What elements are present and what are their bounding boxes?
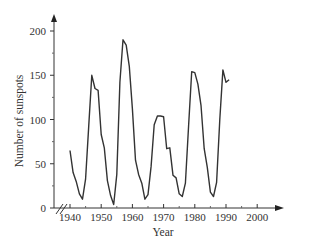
y-tick-label: 100 [30,114,47,126]
x-tick-label: 1960 [121,211,144,223]
sunspot-series-line [70,40,229,205]
y-tick-label: 0 [41,202,47,214]
x-tick-label: 1950 [90,211,113,223]
x-tick-label: 1970 [153,211,176,223]
y-axis-arrow-icon [51,14,57,22]
x-axis-arrow-icon [275,205,284,211]
x-tick-label: 1980 [184,211,207,223]
x-tick-label: 2000 [246,211,269,223]
x-axis-title: Year [152,226,173,238]
x-tick-label: 1940 [59,211,82,223]
y-tick-label: 50 [35,158,47,170]
y-axis: 050100150200 [30,14,58,214]
x-axis: 1940195019601970198019902000 [54,204,284,223]
x-tick-label: 1990 [215,211,238,223]
y-axis-title: Number of sunspots [13,74,26,167]
y-tick-label: 150 [30,69,47,81]
sunspot-line-chart: 050100150200 194019501960197019801990200… [0,0,311,245]
y-tick-label: 200 [30,25,47,37]
